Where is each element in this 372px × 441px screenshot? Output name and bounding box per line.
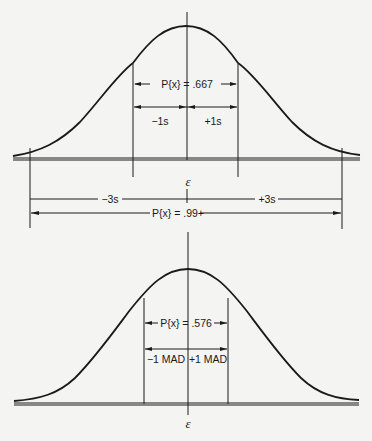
arrow-left-icon xyxy=(145,321,152,325)
top-minus-3s-label: −3s xyxy=(101,193,118,205)
top-mean-symbol: ε xyxy=(185,174,191,189)
arrow-right-icon xyxy=(230,82,237,86)
arrow-left-icon xyxy=(145,347,152,351)
arrow-right-icon xyxy=(220,321,227,325)
top-inner-prob-label: P{x} = .667 xyxy=(161,78,213,90)
top-outer-prob-label: P{x} = .99+ xyxy=(152,207,204,219)
normal-distribution-diagram: P{x} = .667 −1s +1s ε −3s +3s P{x} = .99… xyxy=(0,0,372,441)
bottom-plus-mad-label: +1 MAD xyxy=(189,353,228,365)
top-minus-1s-label: −1s xyxy=(151,115,168,127)
arrow-right-icon xyxy=(179,105,186,109)
top-plus-1s-label: +1s xyxy=(204,115,221,127)
bottom-mean-symbol: ε xyxy=(185,416,191,431)
arrow-right-icon xyxy=(333,211,341,215)
bottom-bell-curve xyxy=(14,269,359,401)
arrow-left-icon xyxy=(31,211,39,215)
bottom-figure: P{x} = .576 −1 MAD +1 MAD ε xyxy=(14,232,359,431)
bottom-minus-mad-label: −1 MAD xyxy=(147,353,186,365)
arrow-right-icon xyxy=(230,105,237,109)
top-figure: P{x} = .667 −1s +1s ε −3s +3s P{x} = .99… xyxy=(13,12,360,229)
arrow-left-icon xyxy=(134,105,141,109)
bottom-inner-prob-label: P{x} = .576 xyxy=(160,317,212,329)
arrow-right-icon xyxy=(220,347,227,351)
arrow-left-icon xyxy=(188,105,195,109)
top-plus-3s-label: +3s xyxy=(258,193,275,205)
arrow-left-icon xyxy=(134,82,141,86)
